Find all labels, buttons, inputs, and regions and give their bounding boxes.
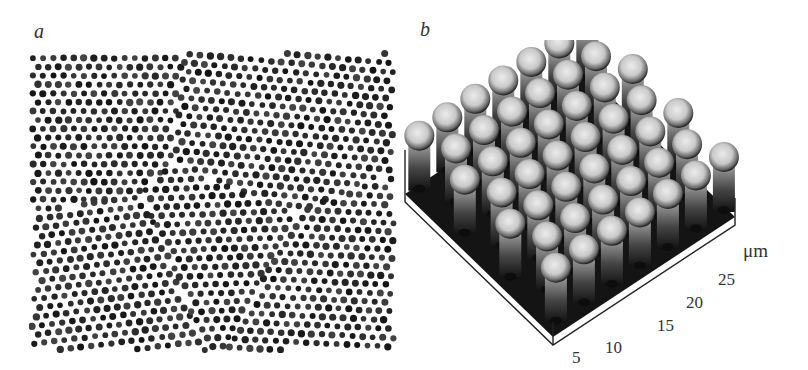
dot-pattern-image	[29, 50, 397, 353]
axis-tick-5: 5	[572, 348, 581, 368]
axis-tick-15: 15	[657, 316, 674, 336]
dot-array-micrograph	[29, 50, 397, 353]
panel-b-label: b	[420, 18, 430, 41]
afm-surface	[400, 40, 808, 370]
axis-tick-10: 10	[605, 338, 622, 358]
axis-tick-25: 25	[718, 270, 735, 290]
panel-a-label: a	[34, 20, 44, 43]
afm-3d-plot: 5 10 15 20 25 μm	[400, 40, 808, 370]
axis-unit-label: μm	[743, 240, 768, 262]
axis-tick-20: 20	[686, 293, 703, 313]
